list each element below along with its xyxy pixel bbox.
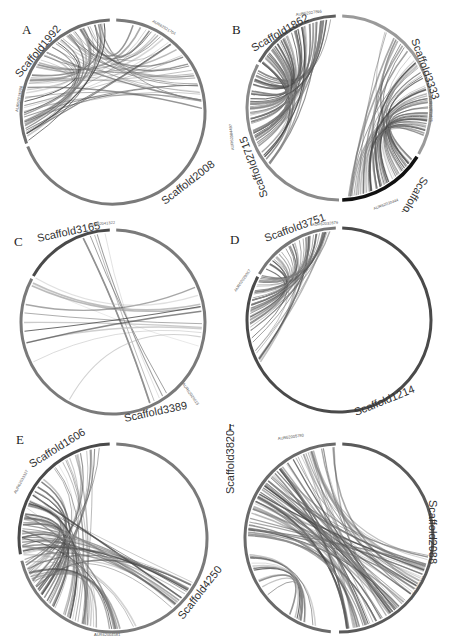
gene-label: AUR62032879	[312, 220, 339, 227]
gene-label: AUR62011825	[428, 96, 434, 123]
panel-b: B Scaffold1862 Scaffold3333 Scaffold3514…	[226, 0, 453, 212]
circos-plot-d: D Scaffold3751 Scaffold1214 AUR62032879 …	[226, 212, 453, 424]
panel-a: A Scaffold1992 Scaffold2008 AUR62021704 …	[0, 0, 226, 212]
panel-label: B	[232, 22, 241, 37]
panel-d: D Scaffold3751 Scaffold1214 AUR62032879 …	[226, 212, 453, 424]
circos-plot-a: A Scaffold1992 Scaffold2008 AUR62021704 …	[0, 0, 226, 212]
panel-label: A	[22, 22, 32, 37]
gene-label: AUR62005780	[277, 432, 304, 441]
gene-label: AUR62004581	[94, 632, 121, 637]
circos-plot-f: F Scaffold3820 Scaffold2088 AUR62005780 …	[226, 424, 453, 644]
synteny-links	[24, 233, 202, 403]
circos-plot-c: C Scaffold3165 Scaffold3389 AUR62041322 …	[0, 212, 226, 424]
scaffold-label: Scaffold1214	[352, 383, 416, 418]
panel-e: E Scaffold1606 Scaffold4250 AUR62033327 …	[0, 424, 226, 644]
circos-plot-b: B Scaffold1862 Scaffold3333 Scaffold3514…	[226, 0, 453, 212]
gene-label: AUR62041322	[89, 220, 116, 227]
panel-f: F Scaffold3820 Scaffold2088 AUR62005780 …	[226, 424, 453, 644]
gene-label: AUR62029067	[233, 268, 253, 293]
synteny-links	[250, 231, 330, 361]
scaffold-label: Scaffold3820	[226, 430, 236, 494]
panel-c: C Scaffold3165 Scaffold3389 AUR62041322 …	[0, 212, 226, 424]
synteny-links	[248, 447, 428, 629]
gene-label: AUR62027866	[295, 8, 322, 17]
gene-label: AUR62033327	[12, 468, 29, 494]
gene-label: AUR62030444	[373, 197, 400, 211]
scaffold-label: Scaffold2088	[427, 500, 439, 564]
panel-label: C	[14, 234, 23, 249]
synteny-links	[22, 448, 192, 629]
panel-label: D	[230, 232, 239, 247]
gene-label: AUR62004497	[228, 123, 235, 150]
circos-plot-e: E Scaffold1606 Scaffold4250 AUR62033327 …	[0, 424, 226, 644]
panel-label: E	[16, 432, 24, 447]
synteny-links	[250, 19, 428, 196]
